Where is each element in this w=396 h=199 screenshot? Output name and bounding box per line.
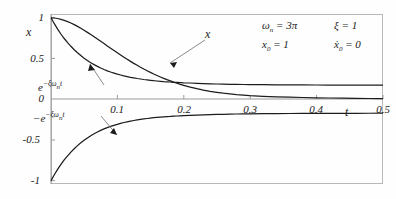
param-omega-symbol: ω	[262, 19, 270, 31]
param-xdot0-subscript: 0	[339, 45, 343, 53]
x-tick-label-0p2: 0.2	[167, 103, 201, 115]
curve-label-x: x	[205, 27, 210, 42]
x-tick-label-0p4: 0.4	[299, 103, 333, 115]
y-axis-label: x	[26, 25, 31, 40]
y-tick-label-0p5: 0.5	[14, 52, 44, 64]
param-zeta: ξ = 1	[334, 19, 357, 31]
param-omega-subscript: n	[270, 26, 274, 34]
x-tick-label-0p3: 0.3	[233, 103, 267, 115]
leader-upper-envelope-label	[88, 64, 104, 85]
y-tick-label-0: 0	[14, 92, 44, 104]
param-x0: x0 = 1	[262, 38, 289, 53]
y-tick-label-neg0p5: -0.5	[10, 133, 40, 145]
leader-x-label	[170, 40, 205, 68]
param-zeta-value: = 1	[341, 19, 357, 31]
param-x0-value: = 1	[273, 38, 289, 50]
x-tick-label-0p5: 0.5	[366, 103, 396, 115]
param-zeta-symbol: ξ	[334, 19, 339, 31]
x-tick-label-0p1: 0.1	[100, 103, 134, 115]
upper-envelope-label: e−ξωnt	[38, 79, 62, 93]
neg-env-exp-t: t	[62, 110, 64, 119]
env-exponent: −ξωnt	[43, 79, 62, 88]
x-axis-label: t	[345, 105, 348, 120]
env-exp-t: t	[60, 79, 62, 88]
param-xdot0: ẋ0 = 0	[334, 38, 361, 53]
param-omega-value: = 3π	[276, 19, 297, 31]
y-tick-label-1: 1	[14, 11, 44, 23]
curve-lower-envelope	[51, 113, 383, 180]
y-tick-label-neg1: -1	[10, 174, 40, 186]
param-omega-n: ωn = 3π	[262, 19, 297, 34]
lower-envelope-label: −e−ξωnt	[33, 110, 65, 124]
param-xdot0-value: = 0	[345, 38, 361, 50]
figure-critically-damped-response: x t 1 0.5 0 -0.5 -1 0.1 0.2 0.3 0.4 0.5 …	[0, 0, 396, 199]
param-x0-subscript: 0	[267, 45, 271, 53]
neg-env-exponent: −ξωnt	[45, 110, 64, 119]
